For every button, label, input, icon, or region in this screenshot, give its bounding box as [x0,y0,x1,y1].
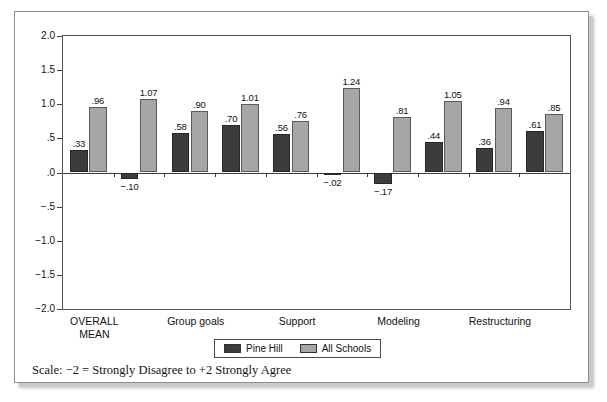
x-axis-tick-mark [469,173,470,177]
bar-pine-hill [374,173,392,185]
bar-value-label: 1.07 [132,87,166,98]
x-axis-tick-mark [418,173,419,177]
bar-pine-hill [273,134,291,172]
bar-all-schools [140,99,158,172]
bar-pine-hill [121,173,139,180]
bar-value-label: .94 [487,96,521,107]
bar-pine-hill [324,173,342,175]
bar-value-label: −.02 [316,177,350,188]
y-axis-tick-label: 1.0 [41,98,55,109]
y-axis-tick-label: 2.0 [41,30,55,41]
legend-swatch-icon [300,344,317,353]
x-axis-category-label: Support [279,315,316,328]
bar-value-label: −.10 [113,181,147,192]
bar-all-schools [393,117,411,172]
chart-legend: Pine HillAll Schools [214,339,381,358]
bar-chart-figure: 2.01.51.0.5.0−.5−1.0−1.5−2.0 .33.96−.101… [15,12,590,384]
y-axis-tick-label: −2.0 [35,303,55,314]
x-axis-tick-mark [266,173,267,177]
bar-value-label: 1.05 [436,89,470,100]
bar-all-schools [444,101,462,173]
bar-pine-hill [425,142,443,172]
bar-pine-hill [222,125,240,173]
bar-value-label: .85 [537,102,571,113]
x-axis-category-label: Group goals [167,315,224,328]
bar-value-label: .90 [183,99,217,110]
x-axis-category-label: Modeling [377,315,420,328]
legend-label: Pine Hill [246,343,283,354]
legend-item: All Schools [300,343,371,354]
bar-pine-hill [476,148,494,173]
y-axis-tick-label: −1.0 [35,235,55,246]
bar-all-schools [191,111,209,172]
bar-value-label: .81 [385,105,419,116]
legend-label: All Schools [322,343,371,354]
bar-all-schools [241,104,259,173]
x-axis-tick-mark [114,173,115,177]
bar-pine-hill [172,133,190,173]
scanned-page-frame: 2.01.51.0.5.0−.5−1.0−1.5−2.0 .33.96−.101… [14,11,589,383]
y-axis: 2.01.51.0.5.0−.5−1.0−1.5−2.0 [23,12,55,384]
y-axis-tick-label: 1.5 [41,64,55,75]
bar-all-schools [545,114,563,172]
bar-pine-hill [526,131,544,173]
bar-all-schools [89,107,107,173]
bar-all-schools [343,88,361,173]
legend-swatch-icon [224,344,241,353]
x-axis-category-label: OVERALL MEAN [70,315,118,340]
bar-value-label: .76 [284,109,318,120]
y-axis-tick-label: .5 [47,132,55,143]
y-axis-tick-label: −.5 [41,201,55,212]
legend-item: Pine Hill [224,343,283,354]
scale-caption: Scale: −2 = Strongly Disagree to +2 Stro… [32,363,291,378]
x-axis-category-label: Restructuring [469,315,531,328]
bars-layer: .33.96−.101.07.58.90.701.01.56.76−.021.2… [63,36,570,309]
y-axis-tick-label: −1.5 [35,269,55,280]
x-axis-tick-mark [164,173,165,177]
x-axis-tick-mark [215,173,216,177]
bar-pine-hill [70,150,88,173]
bar-value-label: −.17 [366,186,400,197]
x-axis-tick-mark [367,173,368,177]
bar-value-label: 1.24 [335,76,369,87]
x-axis-tick-mark [519,173,520,177]
bar-value-label: .96 [81,95,115,106]
y-axis-tick-label: .0 [47,167,55,178]
bar-all-schools [495,108,513,172]
bar-all-schools [292,121,310,173]
bar-value-label: 1.01 [233,92,267,103]
